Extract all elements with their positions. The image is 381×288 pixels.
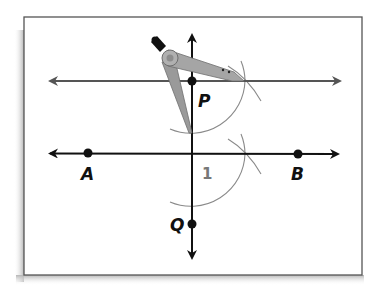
label-a: A — [79, 164, 94, 184]
label-b: B — [291, 164, 304, 184]
label-q: Q — [170, 215, 184, 235]
label-p: P — [198, 91, 211, 111]
angle-1-label: 1 — [202, 165, 212, 183]
point-p — [188, 77, 197, 86]
point-b — [294, 150, 303, 159]
point-q — [188, 220, 197, 229]
point-a — [84, 149, 93, 158]
parallel-line-construction-diagram: P Q A B 1 — [0, 0, 381, 288]
